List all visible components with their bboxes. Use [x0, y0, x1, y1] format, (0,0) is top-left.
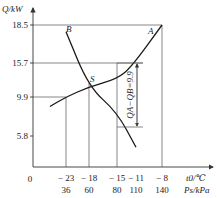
x-tick-label-p: 80: [113, 185, 123, 195]
series-A-line: [50, 25, 162, 107]
x-axis-label-p: Ps/kPa: [183, 185, 210, 195]
annotation-label: QA−QB=9.9: [125, 71, 135, 119]
y-axis-label: Q/kW: [2, 4, 24, 14]
intersection-label: S: [90, 74, 95, 84]
x-tick-label-t: − 8: [156, 173, 168, 183]
x-axis-label-t: t0/℃: [186, 173, 207, 183]
x-tick-label-t: − 11: [128, 173, 144, 183]
x-tick-label-t: − 18: [81, 173, 98, 183]
x-tick-label-p: 60: [85, 185, 95, 195]
series-label-B: B: [66, 24, 72, 34]
y-tick-label: 18.5: [12, 20, 28, 30]
gridlines: [33, 25, 162, 167]
y-tick-label: 15.7: [12, 58, 28, 68]
x-tick-label-t: − 23: [58, 173, 75, 183]
x-tick-label-p: 140: [155, 185, 169, 195]
x-tick-label-t: − 15: [109, 173, 126, 183]
series-label-A: A: [147, 26, 154, 36]
origin-label: 0: [28, 174, 33, 184]
x-tick-label-p: 36: [62, 185, 72, 195]
x-tick-label-p: 110: [129, 185, 143, 195]
chart: Q/kW 0 5.89.915.718.5 − 2336− 1860− 1580…: [0, 0, 217, 198]
y-tick-label: 9.9: [17, 92, 29, 102]
y-tick-label: 5.8: [17, 131, 29, 141]
